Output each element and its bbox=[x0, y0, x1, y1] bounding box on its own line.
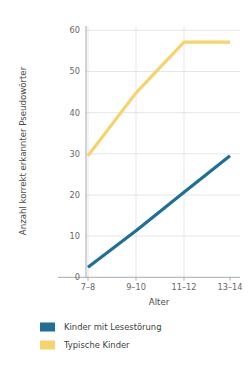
series-line-kinder-mit-lesestoerung bbox=[88, 156, 230, 267]
x-tick-marks bbox=[88, 277, 230, 280]
x-tick-label-13-14: 13–14 bbox=[218, 282, 243, 292]
chart-legend: Kinder mit Lesestörung Typische Kinder bbox=[40, 322, 161, 350]
legend-swatch-kinder-mit-lesestoerung bbox=[40, 323, 55, 332]
y-tick-label-10: 10 bbox=[70, 231, 80, 241]
line-chart: 60 50 40 30 20 10 0 7–8 9–10 11–12 13–14… bbox=[0, 0, 248, 371]
y-tick-label-0: 0 bbox=[75, 272, 80, 282]
y-tick-label-60: 60 bbox=[70, 25, 80, 35]
legend-label-typische-kinder: Typische Kinder bbox=[63, 340, 130, 350]
series-line-typische-kinder bbox=[88, 42, 230, 155]
x-tick-label-7-8: 7–8 bbox=[81, 282, 96, 292]
y-tick-label-20: 20 bbox=[70, 190, 80, 200]
horizontal-gridlines bbox=[86, 30, 240, 236]
x-tick-label-11-12: 11–12 bbox=[172, 282, 197, 292]
legend-swatch-typische-kinder bbox=[40, 341, 55, 350]
x-tick-label-9-10: 9–10 bbox=[126, 282, 146, 292]
y-tick-label-30: 30 bbox=[70, 149, 80, 159]
x-axis-title: Alter bbox=[149, 297, 170, 307]
chart-figure: 60 50 40 30 20 10 0 7–8 9–10 11–12 13–14… bbox=[0, 0, 248, 371]
y-tick-label-40: 40 bbox=[70, 108, 80, 118]
y-tick-label-50: 50 bbox=[70, 66, 80, 76]
vertical-gridlines bbox=[88, 26, 184, 277]
legend-label-kinder-mit-lesestoerung: Kinder mit Lesestörung bbox=[64, 322, 161, 332]
y-axis-title: Anzahl korrekt erkannter Pseudowörter bbox=[18, 66, 28, 235]
